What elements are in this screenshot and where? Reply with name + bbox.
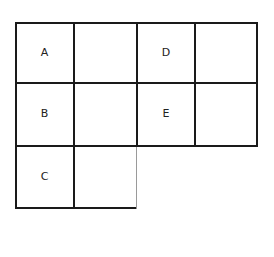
cell-r2c4	[195, 82, 257, 145]
cell-r1c4	[195, 22, 257, 82]
cell-e: E	[137, 82, 195, 145]
grid-line-v3	[194, 22, 196, 147]
cell-label: A	[41, 46, 49, 59]
cell-d: D	[137, 22, 195, 82]
cell-b: B	[15, 82, 74, 145]
grid-line-left	[15, 22, 17, 209]
cell-r1c2	[74, 22, 137, 82]
cell-r2c2	[74, 82, 137, 145]
grid-line-v2-faint	[136, 147, 137, 209]
grid-line-right	[256, 22, 258, 147]
cell-label: D	[162, 46, 170, 59]
cell-a: A	[15, 22, 74, 82]
grid-line-v1	[73, 22, 75, 209]
grid-line-v2	[136, 22, 138, 147]
cell-label: B	[41, 107, 49, 120]
grid-line-bottom	[15, 207, 137, 209]
cell-c: C	[15, 145, 74, 208]
cell-label: E	[163, 107, 170, 120]
cell-label: C	[41, 170, 49, 183]
cell-r3c2	[74, 145, 137, 208]
